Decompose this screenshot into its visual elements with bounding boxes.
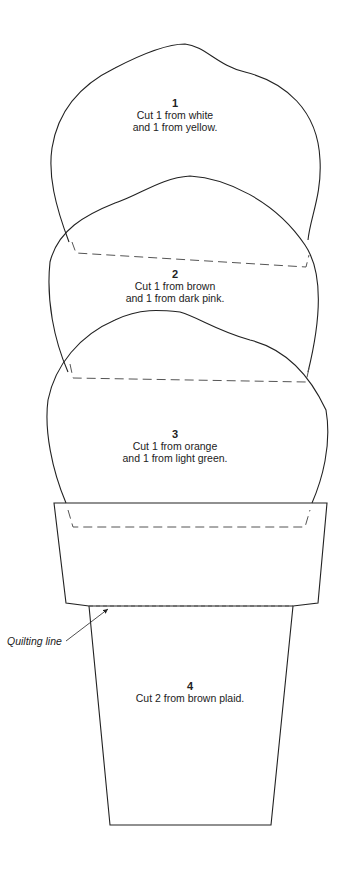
piece-2-number: 2 — [100, 268, 250, 280]
piece-1-instruction-line2: and 1 from yellow. — [100, 121, 250, 133]
piece-4-label: 4 Cut 2 from brown plaid. — [115, 680, 265, 704]
piece-1-seam-line — [72, 242, 309, 267]
piece-3-number: 3 — [100, 428, 250, 440]
piece-3-instruction-line2: and 1 from light green. — [100, 452, 250, 464]
piece-3-seam-line — [68, 510, 310, 527]
callout-arrow — [66, 609, 108, 641]
piece-4-number: 4 — [115, 680, 265, 692]
cone-rim-outline — [54, 503, 327, 606]
piece-1-outline — [51, 44, 320, 242]
quilting-line-callout: Quilting line — [7, 635, 62, 647]
piece-1-instruction-line1: Cut 1 from white — [100, 109, 250, 121]
piece-2-label: 2 Cut 1 from brown and 1 from dark pink. — [100, 268, 250, 304]
piece-1-number: 1 — [100, 97, 250, 109]
piece-2-instruction-line2: and 1 from dark pink. — [100, 292, 250, 304]
piece-3-instruction-line1: Cut 1 from orange — [100, 440, 250, 452]
cone-body-outline — [89, 606, 293, 825]
piece-2-seam-line — [70, 364, 309, 382]
piece-2-instruction-line1: Cut 1 from brown — [100, 280, 250, 292]
piece-3-outline — [47, 310, 328, 503]
piece-1-label: 1 Cut 1 from white and 1 from yellow. — [100, 97, 250, 133]
piece-4-instruction-line1: Cut 2 from brown plaid. — [115, 692, 265, 704]
piece-3-label: 3 Cut 1 from orange and 1 from light gre… — [100, 428, 250, 464]
